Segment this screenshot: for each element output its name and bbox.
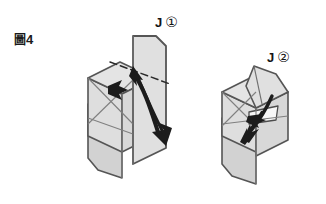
step1-vertical-flap-panel <box>133 36 166 164</box>
diagram-canvas: 圖4 J① J② <box>0 0 326 204</box>
origami-illustration <box>0 0 326 204</box>
figure-step-2 <box>222 66 288 184</box>
figure-step-1 <box>88 36 172 178</box>
